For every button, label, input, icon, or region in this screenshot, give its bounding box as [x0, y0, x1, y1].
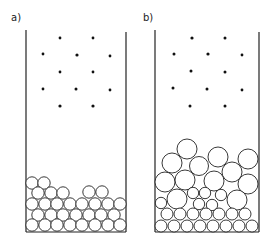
- diagram-canvas: [0, 0, 280, 245]
- panel-b-dots: [172, 36, 244, 107]
- panel-a-dots: [42, 37, 112, 108]
- panel-b-particles: [155, 139, 258, 232]
- panel-a-particles: [26, 177, 126, 231]
